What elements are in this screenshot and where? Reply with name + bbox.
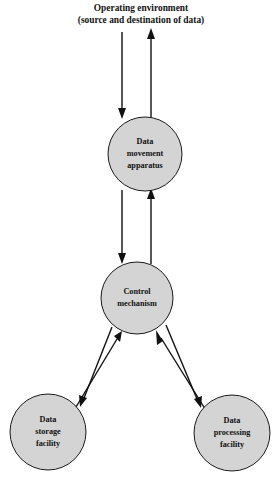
arrow-head-into-control-from-storage: [114, 331, 122, 342]
node-label-processing-line-1: Data: [224, 416, 241, 425]
node-data-storage-facility[interactable]: Data storage facility: [10, 394, 86, 470]
node-label-control-line-1: Control: [123, 287, 151, 296]
connector-apparatus-to-environment: [147, 28, 155, 117]
arrow-head-into-control-from-processing: [156, 330, 163, 345]
diagram-root: Operating environment (source and destin…: [0, 0, 276, 478]
node-data-movement-apparatus[interactable]: Data movement apparatus: [108, 117, 182, 191]
node-label-storage-line-2: storage: [35, 427, 61, 436]
connector-storage-to-control: [73, 331, 122, 412]
arrow-head-down-into-control: [118, 253, 126, 264]
node-label-apparatus-line-3: apparatus: [127, 161, 163, 170]
node-label-control-line-2: mechanism: [117, 299, 157, 308]
node-label-apparatus-line-2: movement: [127, 149, 164, 158]
connector-line-storage-up-right: [73, 339, 117, 412]
node-label-apparatus-line-1: Data: [137, 137, 154, 146]
connector-environment-to-apparatus: [118, 32, 126, 119]
node-label-storage-line-3: facility: [36, 439, 61, 448]
arrow-head-down-into-apparatus: [118, 108, 126, 119]
diagram-canvas: Operating environment (source and destin…: [0, 0, 276, 478]
node-label-processing-line-2: processing: [214, 428, 252, 437]
caption-line-2: (source and destination of data): [78, 15, 204, 26]
connector-apparatus-to-control: [118, 190, 126, 264]
node-label-storage-line-1: Data: [40, 415, 57, 424]
connector-line-processing-up-left: [161, 338, 207, 412]
caption-line-1: Operating environment: [94, 3, 189, 13]
connector-processing-to-control: [156, 330, 207, 412]
arrow-head-up-into-environment: [147, 28, 155, 39]
operating-environment-caption: Operating environment (source and destin…: [78, 3, 204, 26]
connector-control-to-apparatus: [147, 188, 155, 264]
node-control-mechanism[interactable]: Control mechanism: [101, 262, 173, 334]
node-label-processing-line-3: facility: [220, 440, 245, 449]
node-data-processing-facility[interactable]: Data processing facility: [194, 395, 270, 471]
